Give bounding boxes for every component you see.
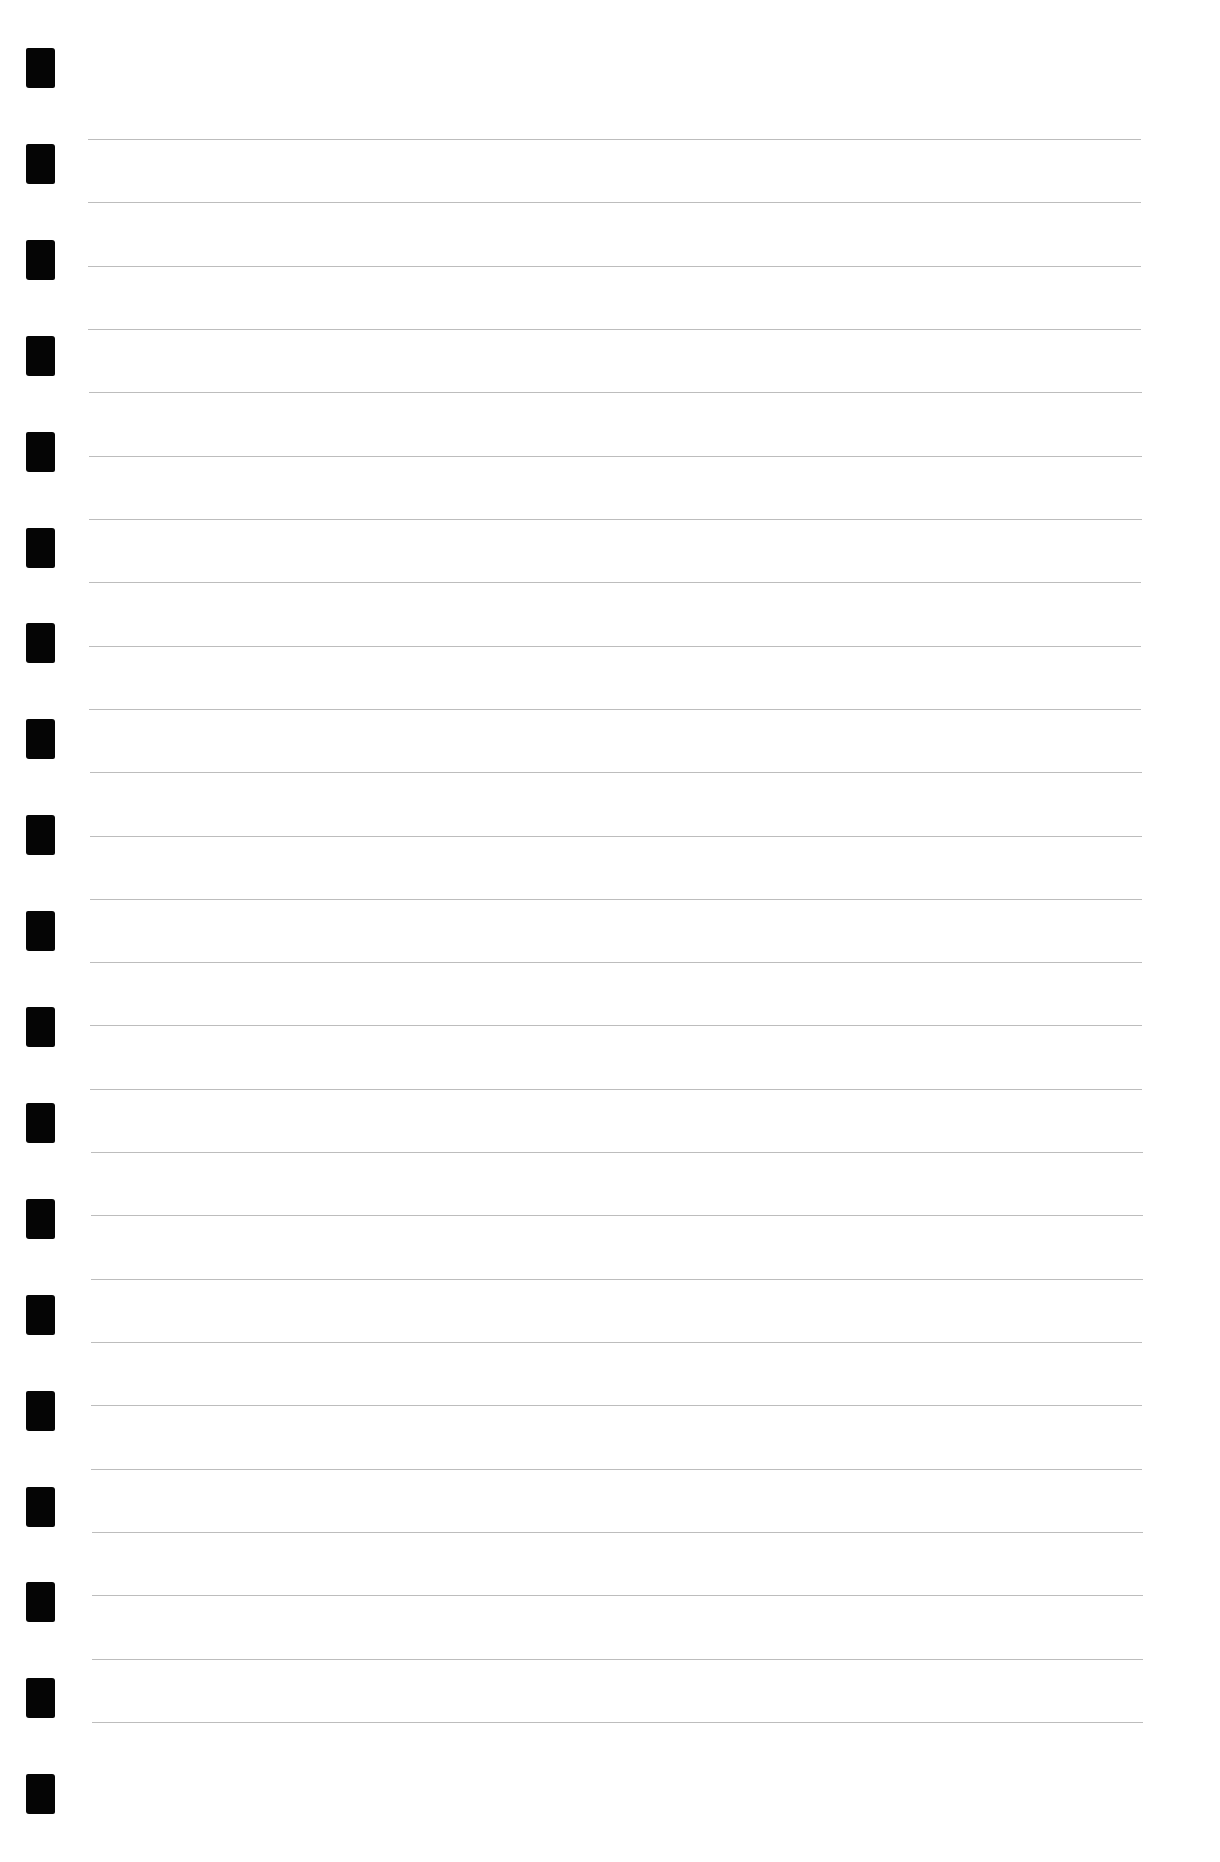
ruled-line — [92, 1532, 1143, 1533]
ruled-line — [91, 1469, 1142, 1470]
punch-hole — [26, 528, 55, 568]
ruled-line — [88, 329, 1141, 330]
punch-hole — [26, 623, 55, 663]
ruled-line — [89, 392, 1142, 393]
ruled-line — [91, 1215, 1143, 1216]
punch-hole — [26, 144, 55, 184]
punch-hole — [26, 1391, 55, 1431]
punch-hole — [26, 1487, 55, 1527]
ruled-line — [88, 266, 1141, 267]
ruled-line — [91, 1152, 1143, 1153]
ruled-line — [89, 646, 1141, 647]
punch-hole — [26, 719, 55, 759]
punch-hole — [26, 911, 55, 951]
ruled-line — [89, 582, 1141, 583]
ruled-line — [89, 709, 1141, 710]
ruled-line — [92, 1722, 1143, 1723]
punch-hole — [26, 1103, 55, 1143]
punch-hole — [26, 1582, 55, 1622]
ruled-line — [92, 1595, 1143, 1596]
ruled-line — [91, 1342, 1142, 1343]
punch-hole — [26, 336, 55, 376]
punch-hole — [26, 1295, 55, 1335]
punch-hole — [26, 1774, 55, 1814]
ruled-line — [90, 899, 1142, 900]
ruled-line — [89, 456, 1142, 457]
ruled-line — [89, 519, 1142, 520]
notebook-page — [0, 0, 1220, 1862]
ruled-line — [92, 1659, 1143, 1660]
punch-hole — [26, 1678, 55, 1718]
ruled-line — [90, 836, 1142, 837]
ruled-line — [90, 1025, 1142, 1026]
punch-hole — [26, 1007, 55, 1047]
ruled-line — [90, 962, 1142, 963]
ruled-line — [91, 1405, 1142, 1406]
ruled-line — [90, 772, 1142, 773]
ruled-line — [88, 139, 1141, 140]
punch-hole — [26, 240, 55, 280]
ruled-line — [90, 1089, 1142, 1090]
punch-hole — [26, 432, 55, 472]
ruled-line — [91, 1279, 1143, 1280]
punch-hole — [26, 48, 55, 88]
ruled-line — [88, 202, 1141, 203]
punch-hole — [26, 1199, 55, 1239]
punch-hole — [26, 815, 55, 855]
